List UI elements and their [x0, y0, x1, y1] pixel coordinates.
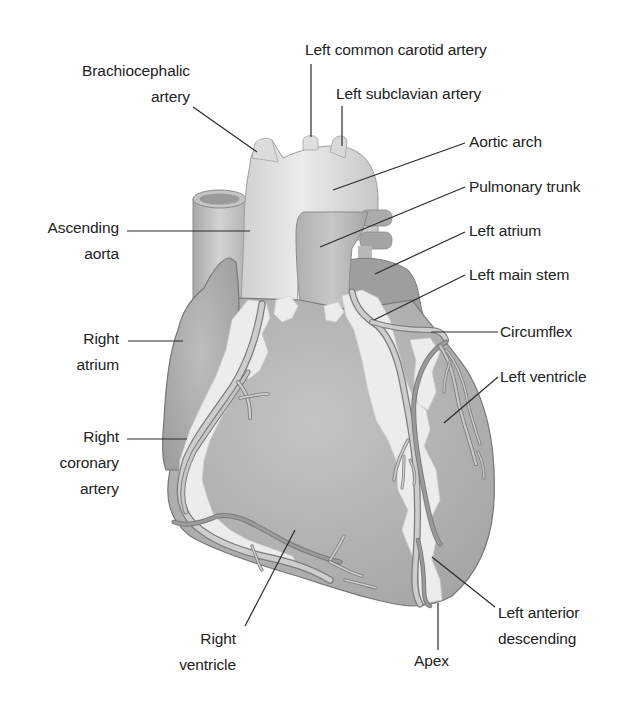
label-line: descending	[498, 626, 579, 652]
label-right-ventricle: Right ventricle	[150, 626, 236, 678]
label-line: Brachiocephalic	[56, 58, 190, 84]
label-line: Right	[20, 326, 119, 352]
label-left-main-stem: Left main stem	[469, 262, 569, 288]
label-circumflex: Circumflex	[500, 319, 572, 345]
label-right-coronary-artery: Right coronary artery	[20, 424, 119, 502]
label-left-ventricle: Left ventricle	[500, 364, 586, 390]
leader-brachiocephalic	[193, 107, 257, 152]
label-left-anterior-descending: Left anterior descending	[498, 600, 579, 652]
label-pulmonary-trunk: Pulmonary trunk	[469, 174, 580, 200]
label-line: Left common carotid artery	[305, 37, 487, 63]
label-line: Left anterior	[498, 600, 579, 626]
label-line: ventricle	[150, 652, 236, 678]
label-line: Left subclavian artery	[336, 81, 481, 107]
label-apex: Apex	[414, 648, 449, 674]
heart-diagram: Brachiocephalic artery Left common carot…	[0, 0, 636, 709]
label-line: artery	[20, 476, 119, 502]
label-line: coronary	[20, 450, 119, 476]
label-left-common-carotid-artery: Left common carotid artery	[305, 37, 487, 63]
label-line: Left ventricle	[500, 364, 586, 390]
label-line: Apex	[414, 648, 449, 674]
label-line: artery	[56, 84, 190, 110]
label-line: atrium	[20, 352, 119, 378]
label-brachiocephalic-artery: Brachiocephalic artery	[56, 58, 190, 110]
label-line: Right	[20, 424, 119, 450]
label-right-atrium: Right atrium	[20, 326, 119, 378]
label-line: Left main stem	[469, 262, 569, 288]
label-line: Left atrium	[469, 218, 541, 244]
label-line: Ascending	[20, 215, 119, 241]
label-line: Circumflex	[500, 319, 572, 345]
label-left-subclavian-artery: Left subclavian artery	[336, 81, 481, 107]
label-line: Aortic arch	[469, 129, 542, 155]
label-line: Right	[150, 626, 236, 652]
label-aortic-arch: Aortic arch	[469, 129, 542, 155]
label-line: Pulmonary trunk	[469, 174, 580, 200]
label-ascending-aorta: Ascending aorta	[20, 215, 119, 267]
label-line: aorta	[20, 241, 119, 267]
label-left-atrium: Left atrium	[469, 218, 541, 244]
